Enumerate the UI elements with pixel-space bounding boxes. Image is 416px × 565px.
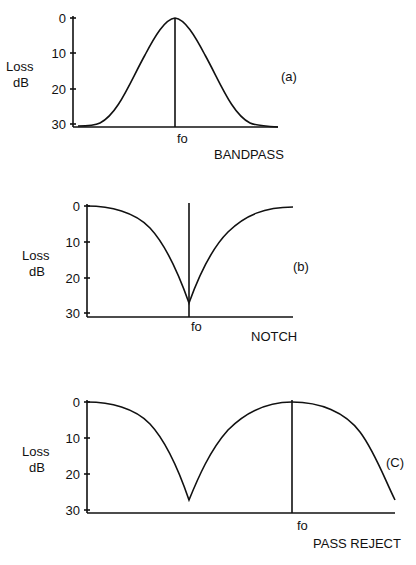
y-tick-20: 20 [66, 467, 80, 482]
panel-title: NOTCH [251, 329, 297, 344]
y-tick-0: 0 [59, 11, 66, 26]
y-tick-30: 30 [52, 117, 66, 132]
panel-notch: Loss dB 0 10 20 30 (b) fo NOTCH [22, 199, 309, 344]
panel-pass-reject: Loss dB 0 10 20 30 (C) fo PASS REJECT [22, 395, 404, 551]
panel-tag: (a) [281, 69, 297, 84]
y-axis-label-db: dB [29, 264, 45, 279]
fo-label: fo [297, 518, 308, 533]
y-axis [84, 204, 90, 317]
y-tick-0: 0 [73, 199, 80, 214]
y-tick-10: 10 [52, 46, 66, 61]
y-axis-label-db: dB [29, 460, 45, 475]
y-axis-label-loss: Loss [22, 248, 50, 263]
y-tick-0: 0 [73, 395, 80, 410]
y-axis [70, 16, 76, 127]
panel-bandpass: Loss dB 0 10 20 30 (a) fo BANDPASS [6, 11, 297, 162]
y-tick-30: 30 [66, 503, 80, 518]
panel-tag: (C) [386, 455, 404, 470]
y-tick-30: 30 [66, 306, 80, 321]
y-tick-20: 20 [52, 82, 66, 97]
notch-curve [87, 206, 293, 303]
y-axis-label-loss: Loss [22, 444, 50, 459]
y-axis-label-loss: Loss [6, 59, 34, 74]
fo-label: fo [191, 319, 202, 334]
filter-response-figure: Loss dB 0 10 20 30 (a) fo BANDPASS Loss … [0, 0, 416, 565]
panel-title: PASS REJECT [313, 536, 401, 551]
bandpass-curve [78, 18, 278, 127]
fo-label: fo [177, 131, 188, 146]
panel-tag: (b) [293, 259, 309, 274]
panel-title: BANDPASS [214, 147, 284, 162]
y-tick-20: 20 [66, 271, 80, 286]
y-axis [84, 400, 90, 513]
y-axis-label-db: dB [13, 75, 29, 90]
y-tick-10: 10 [66, 235, 80, 250]
y-tick-10: 10 [66, 431, 80, 446]
pass-reject-curve [87, 402, 395, 500]
